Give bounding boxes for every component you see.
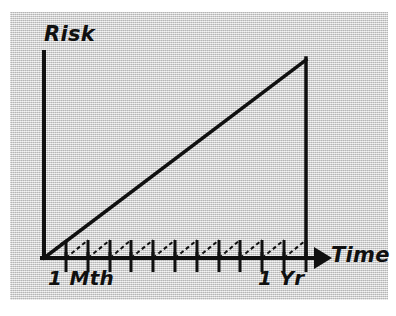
x-axis-tick-label-one-month: 1 Mth <box>48 266 114 290</box>
x-axis-arrowhead-icon <box>314 247 332 269</box>
sawtooth-rise <box>66 240 88 258</box>
sawtooth-rise <box>197 240 219 258</box>
x-axis-tick-label-one-year: 1 Yr <box>258 266 304 290</box>
sawtooth-series <box>44 240 306 258</box>
sawtooth-rise <box>284 240 306 258</box>
cumulative-risk-series <box>44 58 306 258</box>
sawtooth-rise <box>240 240 262 258</box>
axis-lines <box>42 52 332 269</box>
sawtooth-rise <box>219 240 240 258</box>
sawtooth-rise <box>175 240 197 258</box>
sawtooth-rise <box>262 240 284 258</box>
sawtooth-rise <box>110 240 131 258</box>
risk-vs-time-figure: Risk Time 1 Mth 1 Yr <box>0 0 396 316</box>
sawtooth-rise <box>131 240 153 258</box>
y-axis-label: Risk <box>44 22 95 46</box>
cumulative-risk-rising-line <box>44 60 306 258</box>
sawtooth-rise <box>153 240 175 258</box>
sawtooth-rise <box>88 240 110 258</box>
x-axis-label: Time <box>331 243 390 267</box>
